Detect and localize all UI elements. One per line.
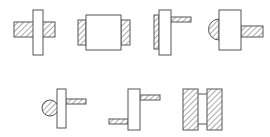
vertical-plate [159,10,171,55]
lower-left-hatched-bar [109,119,128,124]
left-hatched-block [183,89,198,130]
figure-1 [14,10,55,55]
upper-right-hatched-bar [140,95,160,100]
figure-3 [154,10,191,55]
vertical-plate [57,89,66,128]
right-hatched-bar [241,26,263,37]
figure-7 [183,89,222,130]
left-hatched-half-circle [209,19,220,40]
left-hatched-weld [154,15,159,49]
central-box [86,15,121,50]
left-hatched-circle [42,100,58,116]
right-hatched-bar [66,99,86,104]
figure-2 [78,15,130,50]
figure-6 [109,89,160,130]
vertical-plate [128,89,140,130]
left-hatched-weld [78,20,86,45]
right-hatched-block [207,89,222,130]
figure-4 [209,10,264,50]
central-box [219,10,241,50]
vertical-plate [33,10,43,55]
right-hatched-weld [121,20,130,45]
figure-5 [42,89,86,128]
right-hatched-bar [171,17,191,22]
weld-joint-diagram [0,0,270,137]
